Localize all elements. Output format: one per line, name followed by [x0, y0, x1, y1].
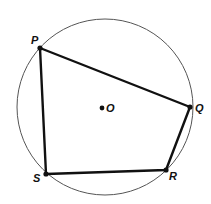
- vertex-p-label: P: [31, 34, 39, 46]
- vertex-r-label: R: [169, 170, 177, 182]
- center-o-dot: [100, 106, 105, 111]
- vertex-q-dot: [187, 104, 192, 109]
- diagram-canvas: P Q R S O: [0, 0, 211, 204]
- center-o-label: O: [106, 102, 115, 114]
- vertex-s-label: S: [33, 172, 41, 184]
- quadrilateral-pqrs: [40, 48, 190, 174]
- vertex-q-label: Q: [195, 102, 204, 114]
- vertex-r-dot: [163, 167, 168, 172]
- vertex-s-dot: [43, 171, 48, 176]
- vertex-p-dot: [37, 45, 42, 50]
